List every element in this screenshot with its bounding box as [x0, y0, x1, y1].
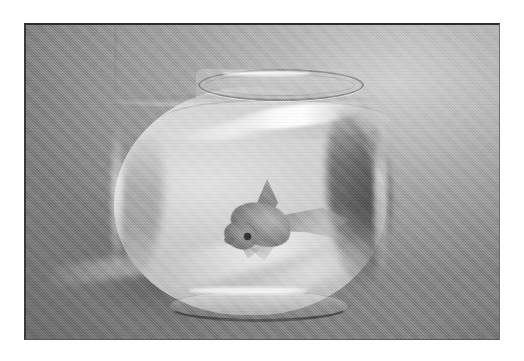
fish-tail-fin [280, 207, 352, 247]
fishbowl [110, 47, 396, 313]
bowl-left-rim-light [111, 123, 123, 273]
bowl-base-ring [168, 291, 350, 322]
photo-frame [24, 23, 500, 340]
goldfish [222, 177, 352, 277]
fish-eye [244, 233, 251, 240]
photograph [26, 25, 499, 339]
bowl-base-highlight [188, 287, 308, 294]
bowl-rim-inner [205, 74, 355, 96]
photo-page [0, 0, 524, 361]
bowl-rim-highlight [222, 71, 310, 76]
